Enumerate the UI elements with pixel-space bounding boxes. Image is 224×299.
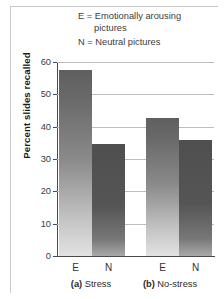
group-label-b: (b) No-stress xyxy=(143,279,197,289)
y-tick-label-20: 20 xyxy=(41,186,51,196)
x-tick-label-a-n: N xyxy=(105,262,112,273)
y-tick-mark-40 xyxy=(53,127,57,128)
figure: E = Emotionally arousing pictures N = Ne… xyxy=(0,0,224,299)
y-axis-title: Percent slides recalled xyxy=(21,36,32,176)
bar-neutral-no-stress xyxy=(179,140,212,256)
y-tick-mark-30 xyxy=(53,159,57,160)
group-tag-a: (a) xyxy=(71,279,82,289)
bar-emotional-no-stress xyxy=(146,118,179,256)
y-tick-label-0: 0 xyxy=(46,251,51,261)
y-tick-mark-0 xyxy=(53,256,57,257)
y-tick-label-60: 60 xyxy=(41,57,51,67)
y-tick-mark-20 xyxy=(53,191,57,192)
plot-wrapper: Percent slides recalled 0102030405060 (a… xyxy=(0,0,224,299)
y-tick-label-40: 40 xyxy=(41,122,51,132)
x-axis-line xyxy=(57,256,215,257)
x-tick-label-b-n: N xyxy=(192,262,199,273)
y-tick-label-50: 50 xyxy=(41,89,51,99)
x-tick-label-a-e: E xyxy=(72,262,79,273)
y-tick-mark-10 xyxy=(53,224,57,225)
x-tick-label-b-e: E xyxy=(159,262,166,273)
y-tick-mark-50 xyxy=(53,94,57,95)
y-tick-label-10: 10 xyxy=(41,219,51,229)
group-label-a: (a) Stress xyxy=(71,279,111,289)
group-tag-b: (b) xyxy=(143,279,155,289)
group-name-b: No-stress xyxy=(157,279,197,289)
group-name-a: Stress xyxy=(85,279,111,289)
gridline-60 xyxy=(57,62,214,63)
y-tick-mark-60 xyxy=(53,62,57,63)
y-tick-label-30: 30 xyxy=(41,154,51,164)
plot-area: 0102030405060 xyxy=(57,62,214,256)
bar-emotional-stress xyxy=(59,70,92,256)
bar-neutral-stress xyxy=(92,144,125,256)
